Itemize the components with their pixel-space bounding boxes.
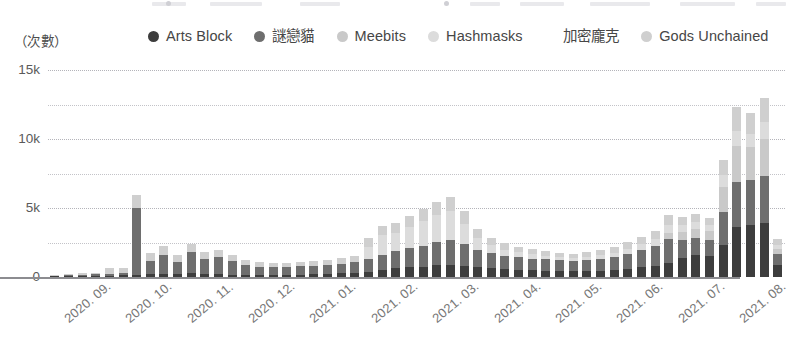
bar-stack [173, 255, 182, 277]
bar-segment [269, 267, 278, 275]
bar-segment [405, 216, 414, 227]
bar-column[interactable] [307, 70, 321, 277]
bar-column[interactable] [716, 70, 730, 277]
bar-column[interactable] [75, 70, 89, 277]
bar-stack [623, 242, 632, 277]
bar-column[interactable] [62, 70, 76, 277]
x-axis-tick-label: 2021. 03. [429, 278, 482, 325]
bar-stack [691, 214, 700, 277]
bar-column[interactable] [675, 70, 689, 277]
bar-column[interactable] [566, 70, 580, 277]
bar-column[interactable] [635, 70, 649, 277]
y-axis-tick-label: 5k [26, 200, 40, 215]
bar-column[interactable] [539, 70, 553, 277]
bar-segment [596, 259, 605, 271]
bar-column[interactable] [416, 70, 430, 277]
bar-segment [569, 261, 578, 271]
bar-column[interactable] [212, 70, 226, 277]
legend-hashmasks[interactable]: Hashmasks [428, 29, 523, 44]
bar-column[interactable] [89, 70, 103, 277]
bar-stack [473, 229, 482, 277]
bar-column[interactable] [485, 70, 499, 277]
bar-stack [760, 98, 769, 277]
bar-segment [200, 252, 209, 259]
bar-column[interactable] [744, 70, 758, 277]
bar-column[interactable] [171, 70, 185, 277]
bar-column[interactable] [703, 70, 717, 277]
bar-column[interactable] [266, 70, 280, 277]
bar-segment [746, 134, 755, 148]
bar-column[interactable] [389, 70, 403, 277]
bar-column[interactable] [457, 70, 471, 277]
bar-segment [691, 222, 700, 229]
bar-column[interactable] [334, 70, 348, 277]
bar-column[interactable] [512, 70, 526, 277]
bar-segment [678, 258, 687, 277]
bar-column[interactable] [403, 70, 417, 277]
bar-column[interactable] [662, 70, 676, 277]
bar-column[interactable] [253, 70, 267, 277]
bar-column[interactable] [130, 70, 144, 277]
chart-legend: Arts Block謎戀貓MeebitsHashmasks加密龐克Gods Un… [148, 29, 791, 44]
bar-column[interactable] [580, 70, 594, 277]
bar-segment [746, 147, 755, 180]
legend-meebits[interactable]: Meebits [337, 29, 406, 44]
bar-segment [391, 233, 400, 251]
bar-column[interactable] [375, 70, 389, 277]
bar-column[interactable] [498, 70, 512, 277]
bar-segment [610, 270, 619, 277]
bar-segment [760, 223, 769, 277]
bar-column[interactable] [689, 70, 703, 277]
bar-column[interactable] [321, 70, 335, 277]
bar-segment [691, 229, 700, 239]
bar-column[interactable] [239, 70, 253, 277]
bar-column[interactable] [771, 70, 785, 277]
bar-column[interactable] [157, 70, 171, 277]
bar-segment [719, 175, 728, 187]
bar-segment [173, 255, 182, 262]
legend-cryptopunks[interactable]: 加密龐克 [545, 29, 619, 44]
bar-segment [514, 270, 523, 277]
bar-column[interactable] [48, 70, 62, 277]
bar-column[interactable] [730, 70, 744, 277]
bar-segment [241, 265, 250, 275]
x-axis-labels: 2020. 09.2020. 10.2020. 11.2020. 12.2021… [48, 281, 785, 351]
bar-column[interactable] [362, 70, 376, 277]
bar-column[interactable] [471, 70, 485, 277]
legend-arts-block[interactable]: Arts Block [148, 29, 232, 44]
bar-column[interactable] [143, 70, 157, 277]
bar-column[interactable] [225, 70, 239, 277]
bar-segment [719, 160, 728, 175]
bar-column[interactable] [594, 70, 608, 277]
bar-column[interactable] [103, 70, 117, 277]
bar-segment [664, 263, 673, 277]
bar-column[interactable] [348, 70, 362, 277]
bar-column[interactable] [116, 70, 130, 277]
bar-segment [432, 265, 441, 277]
bar-segment [637, 250, 646, 267]
legend-cryptokitties[interactable]: 謎戀貓 [254, 29, 314, 44]
bar-column[interactable] [430, 70, 444, 277]
bar-column[interactable] [621, 70, 635, 277]
cropped-top-remnant [0, 0, 801, 9]
bar-column[interactable] [553, 70, 567, 277]
legend-gods-unchained[interactable]: Gods Unchained [641, 29, 768, 44]
bar-column[interactable] [525, 70, 539, 277]
bar-segment [719, 212, 728, 245]
bar-column[interactable] [294, 70, 308, 277]
bar-column[interactable] [444, 70, 458, 277]
legend-label: 加密龐克 [563, 29, 619, 44]
bar-segment [582, 260, 591, 271]
bar-segment [555, 260, 564, 271]
bar-segment [760, 139, 769, 176]
bar-segment [200, 259, 209, 274]
bar-column[interactable] [198, 70, 212, 277]
bar-stack [582, 252, 591, 277]
bar-stack [719, 160, 728, 277]
bar-column[interactable] [184, 70, 198, 277]
bar-column[interactable] [607, 70, 621, 277]
bar-column[interactable] [757, 70, 771, 277]
bar-column[interactable] [648, 70, 662, 277]
bar-column[interactable] [280, 70, 294, 277]
bar-segment [487, 238, 496, 245]
